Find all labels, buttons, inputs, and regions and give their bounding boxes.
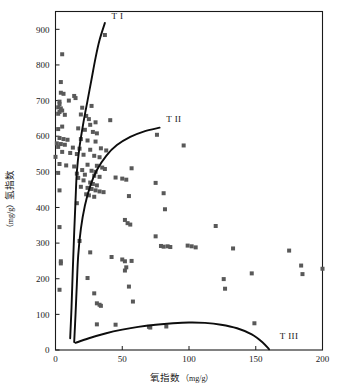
data-point (92, 195, 96, 199)
data-point (155, 133, 159, 137)
data-point (83, 128, 87, 132)
data-point (252, 321, 256, 325)
curve-type-ii (74, 128, 159, 343)
data-point (168, 245, 172, 249)
data-point (80, 106, 84, 110)
data-point (58, 188, 62, 192)
data-point (130, 166, 134, 170)
data-point (250, 271, 254, 275)
x-tick-label: 150 (249, 354, 263, 364)
data-point (90, 104, 94, 108)
data-point (86, 138, 90, 142)
data-point (103, 33, 107, 37)
data-point (287, 249, 291, 253)
y-axis-title-unit: （mg/g） (6, 200, 15, 232)
data-point (92, 291, 96, 295)
x-axis-title-unit: （mg/g） (181, 374, 213, 383)
data-point (190, 244, 194, 248)
data-point-markers (54, 33, 325, 330)
x-axis-title: 氧指数 （mg/g） (150, 372, 213, 383)
data-point (124, 178, 128, 182)
data-point (83, 173, 87, 177)
data-point (67, 99, 71, 103)
data-point (55, 141, 59, 145)
data-point (88, 148, 92, 152)
data-point (123, 269, 127, 273)
data-point (62, 92, 66, 96)
data-point (214, 224, 218, 228)
data-point (92, 154, 96, 158)
data-point (58, 136, 62, 140)
data-point (56, 127, 60, 131)
data-point (98, 189, 102, 193)
kerogen-type-curves (70, 23, 269, 349)
data-point (299, 264, 303, 268)
data-point (79, 185, 83, 189)
data-point (98, 175, 102, 179)
curve-type-i (70, 23, 105, 338)
data-point (64, 163, 68, 167)
data-point (114, 323, 118, 327)
data-point (162, 191, 166, 195)
data-point (74, 96, 78, 100)
van-krevelen-chart: 0100200300400500600700800900 05010015020… (0, 0, 342, 391)
y-tick-label: 500 (36, 167, 50, 177)
data-point (95, 322, 99, 326)
data-point (60, 125, 64, 129)
data-point (60, 150, 64, 154)
data-point (76, 126, 80, 130)
data-point (82, 153, 86, 157)
curve-label-type-iii: T III (280, 331, 299, 341)
x-tick-label: 0 (53, 354, 58, 364)
data-point (59, 80, 63, 84)
data-point (62, 137, 66, 141)
y-tick-label: 300 (36, 238, 50, 248)
data-point (114, 176, 118, 180)
data-point (99, 146, 103, 150)
data-point (63, 143, 67, 147)
y-axis-title-unit-group: （mg/g） (6, 200, 15, 232)
data-point (98, 155, 102, 159)
data-point (91, 130, 95, 134)
data-point (154, 181, 158, 185)
y-tick-label: 200 (36, 274, 50, 284)
data-point (164, 324, 168, 328)
x-tick-label: 200 (316, 354, 330, 364)
data-point (163, 207, 167, 211)
curve-label-type-ii: T II (166, 114, 181, 124)
x-axis-tick-labels: 050100150200 (53, 354, 330, 364)
data-point (56, 171, 60, 175)
data-point (130, 259, 134, 263)
data-point (131, 300, 135, 304)
data-point (128, 223, 132, 227)
curve-label-type-i: T I (112, 11, 124, 21)
data-point (95, 183, 99, 187)
data-point (79, 112, 83, 116)
y-tick-label: 700 (36, 96, 50, 106)
data-point (127, 194, 131, 198)
y-axis-tick-labels: 0100200300400500600700800900 (36, 25, 50, 356)
data-point (82, 178, 86, 182)
data-point (58, 225, 62, 229)
y-tick-label: 0 (45, 345, 50, 355)
data-point (94, 140, 98, 144)
data-point (103, 167, 107, 171)
y-tick-label: 900 (36, 25, 50, 35)
data-point (99, 304, 103, 308)
x-tick-label: 100 (182, 354, 196, 364)
data-point (58, 288, 62, 292)
data-point (110, 255, 114, 259)
data-point (88, 123, 92, 127)
data-point (94, 120, 98, 124)
data-point (127, 285, 131, 289)
data-point (300, 272, 304, 276)
data-point (86, 276, 90, 280)
data-point (66, 138, 70, 142)
data-point (108, 118, 112, 122)
y-tick-label: 400 (36, 203, 50, 213)
data-point (104, 148, 108, 152)
data-point (60, 52, 64, 56)
data-point (80, 168, 84, 172)
data-point (72, 165, 76, 169)
y-tick-label: 800 (36, 60, 50, 70)
